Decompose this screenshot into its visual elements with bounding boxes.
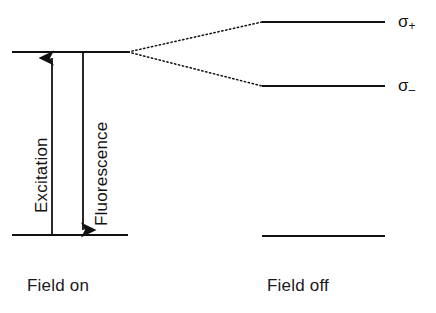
field-on-caption: Field on: [27, 276, 89, 296]
field-off-caption: Field off: [267, 276, 329, 296]
sigma-plus-subscript: +: [409, 19, 416, 33]
energy-level-diagram: σ+ σ– Excitation Fluorescence Field on F…: [0, 0, 436, 313]
diagram-canvas: [0, 0, 436, 313]
sigma-plus-glyph: σ: [398, 12, 409, 31]
sigma-minus-label: σ–: [398, 76, 415, 96]
sigma-minus-subscript: –: [409, 83, 416, 97]
sigma-plus-label: σ+: [398, 12, 416, 32]
sigma-minus-glyph: σ: [398, 76, 409, 95]
excitation-label: Excitation: [32, 137, 52, 213]
splitting-line-lower: [128, 52, 262, 86]
fluorescence-label: Fluorescence: [92, 122, 112, 226]
splitting-line-upper: [128, 22, 262, 52]
